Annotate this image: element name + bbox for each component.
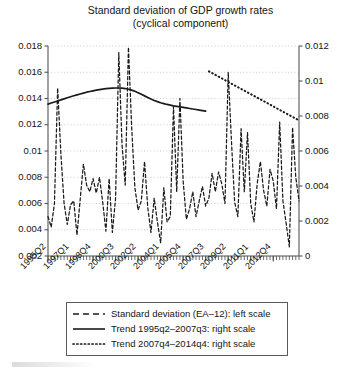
series-dotted — [209, 71, 299, 120]
chart-plot-area: 0.0020.0040.0060.0080.010.0120.0140.0160… — [0, 0, 361, 300]
scan-artifact — [12, 362, 132, 367]
legend-key-dotted-icon — [72, 339, 106, 349]
legend-key-dashed-icon — [72, 309, 106, 319]
y2-axis-tick-label: 0.012 — [305, 40, 329, 51]
y2-axis-tick-label: 0.008 — [305, 110, 329, 121]
y-axis-tick-label: 0.012 — [0, 118, 42, 129]
y-axis-tick-label: 0.014 — [0, 92, 42, 103]
legend-item-trend-2007-2014: Trend 2007q4–2014q4: right scale — [72, 336, 282, 351]
legend-label-trend-1995-2007: Trend 1995q2–2007q3: right scale — [111, 323, 255, 334]
y2-axis-tick-label: 0.004 — [305, 180, 329, 191]
series-dashed — [48, 47, 299, 247]
legend-label-trend-2007-2014: Trend 2007q4–2014q4: right scale — [111, 338, 255, 349]
y2-axis-tick-label: 0.002 — [305, 215, 329, 226]
chart-legend: Standard deviation (EA–12): left scale T… — [66, 302, 288, 356]
y-axis-tick-label: 0.006 — [0, 197, 42, 208]
figure: Standard deviation of GDP growth rates (… — [0, 0, 361, 374]
y-axis-tick-label: 0.008 — [0, 171, 42, 182]
y-axis-tick-label: 0.018 — [0, 40, 42, 51]
legend-item-trend-1995-2007: Trend 1995q2–2007q3: right scale — [72, 321, 282, 336]
y2-axis-tick-label: 0.006 — [305, 145, 329, 156]
y2-axis-tick-label: 0 — [305, 250, 310, 261]
legend-key-solid-icon — [72, 324, 106, 334]
y2-axis-tick-label: 0.01 — [305, 75, 324, 86]
legend-label-standard-deviation: Standard deviation (EA–12): left scale — [111, 308, 270, 319]
y-axis-tick-label: 0.016 — [0, 66, 42, 77]
y-axis-tick-label: 0.004 — [0, 223, 42, 234]
y-axis-tick-label: 0.01 — [0, 145, 42, 156]
legend-item-standard-deviation: Standard deviation (EA–12): left scale — [72, 306, 282, 321]
